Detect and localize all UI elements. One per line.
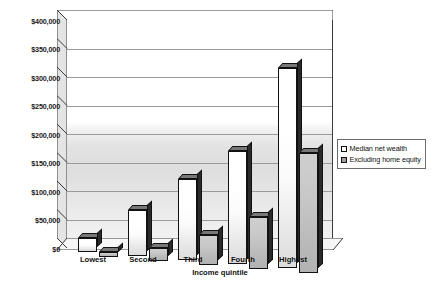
bar-front-face [228, 151, 247, 264]
bar-lowest-median [78, 238, 97, 252]
chart-legend: Median net wealth Excluding home equity [337, 139, 426, 169]
legend-item-label: Median net wealth [350, 144, 408, 153]
bar-fourth-median [228, 151, 247, 264]
y-tick-label: $150,000 [4, 159, 60, 168]
x-axis-title: Income quintile [0, 268, 440, 277]
bar-front-face [278, 68, 297, 268]
bar-third-median [178, 179, 197, 260]
legend-item-excluding-home-equity: Excluding home equity [341, 154, 421, 165]
bar-side-face [168, 238, 173, 256]
y-tick-label: $100,000 [4, 188, 60, 197]
legend-item-label: Excluding home equity [350, 155, 421, 164]
y-tick-label: $50,000 [4, 216, 60, 225]
bar-front-face [128, 210, 147, 256]
x-tick-label-highest: Highest [263, 255, 323, 264]
y-axis-ticks [57, 10, 68, 249]
y-tick-label: $250,000 [4, 102, 60, 111]
y-tick-label: $350,000 [4, 45, 60, 54]
bar-side-face [318, 143, 323, 268]
y-tick-label: $200,000 [4, 131, 60, 140]
legend-item-median-net-wealth: Median net wealth [341, 143, 421, 154]
bar-highest-median [278, 68, 297, 268]
y-tick-label: $0 [4, 245, 60, 254]
legend-swatch-icon [341, 157, 347, 163]
legend-swatch-icon [341, 146, 347, 152]
y-tick-label: $300,000 [4, 74, 60, 83]
gridline [67, 49, 332, 50]
bar-chart: $400,000 $350,000 $300,000 $250,000 $200… [0, 0, 440, 291]
bar-front-face [178, 179, 197, 260]
y-tick-label: $400,000 [4, 17, 60, 26]
bar-front-face [78, 238, 97, 252]
bar-second-median [128, 210, 147, 256]
